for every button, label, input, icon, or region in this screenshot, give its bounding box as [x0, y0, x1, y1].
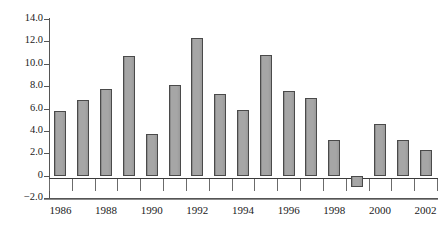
x-axis-tick — [209, 179, 210, 191]
bar — [100, 89, 112, 175]
y-axis-tick-label: 0 — [1, 170, 43, 181]
x-axis-tick — [277, 179, 278, 191]
x-axis-tick — [140, 179, 141, 191]
y-axis-tick-label: 2.0 — [1, 147, 43, 158]
x-axis-tick — [414, 179, 415, 191]
x-axis-tick-label: 1986 — [36, 204, 84, 217]
y-axis-label-slot: 6.0 — [0, 103, 43, 114]
bar — [123, 56, 135, 176]
bar — [191, 38, 203, 176]
bar — [305, 98, 317, 175]
bar — [283, 91, 295, 176]
y-axis-label-slot: −2.0 — [0, 192, 43, 203]
y-axis-tick — [44, 176, 50, 177]
bar — [146, 134, 158, 175]
x-axis-tick — [323, 179, 324, 191]
x-axis-line — [44, 198, 438, 199]
bar — [420, 150, 432, 176]
y-axis-label-slot: 14.0 — [0, 13, 43, 24]
x-axis-tick — [369, 179, 370, 191]
y-axis-label-slot: 4.0 — [0, 125, 43, 136]
bar — [351, 176, 363, 187]
y-axis-tick — [44, 41, 50, 42]
x-axis-tick-label: 1998 — [310, 204, 358, 217]
y-axis-tick-label: 12.0 — [1, 35, 43, 46]
y-axis-tick — [44, 198, 50, 199]
x-axis-tick-label: 1996 — [265, 204, 313, 217]
bar — [77, 100, 89, 176]
y-axis-tick-label: 8.0 — [1, 80, 43, 91]
y-axis-tick-label: 6.0 — [1, 103, 43, 114]
x-axis-tick — [300, 179, 301, 191]
x-axis-tick-label: 1992 — [173, 204, 221, 217]
bar — [54, 111, 66, 176]
y-axis-tick-label: 10.0 — [1, 58, 43, 69]
y-axis-tick-label: 4.0 — [1, 125, 43, 136]
x-axis-tick-label: 1994 — [219, 204, 267, 217]
y-axis-tick — [44, 109, 50, 110]
x-axis-tick — [95, 179, 96, 191]
bar — [214, 94, 226, 176]
x-axis-tick-label: 1988 — [82, 204, 130, 217]
y-axis-label-slot: 0 — [0, 170, 43, 181]
y-axis-tick — [44, 64, 50, 65]
y-axis-label-slot: 12.0 — [0, 35, 43, 46]
bar — [169, 85, 181, 176]
x-axis-tick-label: 2002 — [402, 204, 442, 217]
y-axis-tick — [44, 153, 50, 154]
y-axis-tick — [44, 131, 50, 132]
x-axis-tick — [232, 179, 233, 191]
x-axis-tick-label: 1990 — [128, 204, 176, 217]
x-axis-tick — [49, 179, 50, 191]
x-axis-tick — [186, 179, 187, 191]
x-axis-tick — [437, 179, 438, 191]
y-axis-tick — [44, 86, 50, 87]
bar — [397, 140, 409, 176]
zero-baseline — [49, 178, 438, 179]
bar — [374, 124, 386, 175]
y-axis-label-slot: 10.0 — [0, 58, 43, 69]
bar-chart: 14.012.010.08.06.04.02.00−2.0 1986198819… — [0, 0, 442, 234]
x-axis-tick-label: 2000 — [356, 204, 404, 217]
x-axis-tick — [72, 179, 73, 191]
x-axis-tick — [117, 179, 118, 191]
y-axis-label-slot: 2.0 — [0, 147, 43, 158]
x-axis-tick — [346, 179, 347, 191]
x-axis-tick — [391, 179, 392, 191]
bar — [328, 140, 340, 176]
y-axis-tick-label: −2.0 — [1, 192, 43, 203]
y-axis-tick-label: 14.0 — [1, 13, 43, 24]
bar — [237, 110, 249, 176]
y-axis-tick — [44, 19, 50, 20]
x-axis-tick — [163, 179, 164, 191]
bar — [260, 55, 272, 176]
x-axis-tick — [254, 179, 255, 191]
y-axis-label-slot: 8.0 — [0, 80, 43, 91]
